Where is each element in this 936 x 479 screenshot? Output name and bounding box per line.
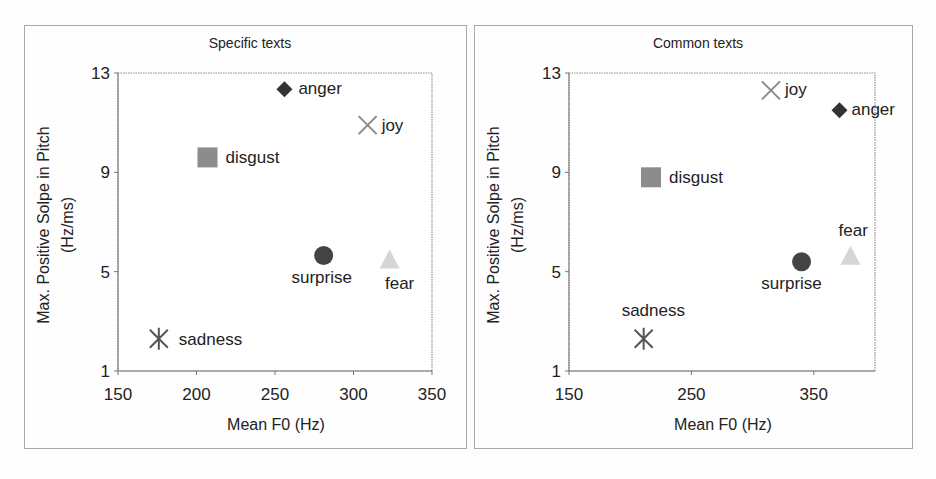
circle-marker-icon <box>792 252 811 271</box>
chart-canvas: Specific texts15913150200250300350Mean F… <box>0 0 936 479</box>
point-label: joy <box>381 116 404 135</box>
data-point-disgust: disgust <box>641 167 723 187</box>
point-label: sadness <box>622 301 685 320</box>
y-tick-label: 13 <box>542 64 561 83</box>
point-label: fear <box>385 274 415 293</box>
point-label: anger <box>852 100 896 119</box>
square-marker-icon <box>197 147 217 167</box>
y-tick-label: 5 <box>552 263 561 282</box>
point-label: joy <box>784 80 807 99</box>
x-tick-label: 150 <box>555 385 583 404</box>
point-label: disgust <box>225 148 279 167</box>
chart-title: Specific texts <box>209 35 291 51</box>
scatter-chart-1: Common texts15913150250350Mean F0 (Hz)Ma… <box>485 35 895 433</box>
scatter-chart-0: Specific texts15913150200250300350Mean F… <box>35 35 446 433</box>
x-tick-label: 300 <box>339 385 367 404</box>
square-marker-icon <box>641 167 661 187</box>
y-tick-label: 1 <box>552 362 561 381</box>
x-axis-label: Mean F0 (Hz) <box>674 416 772 433</box>
point-label: surprise <box>291 268 351 287</box>
x-tick-label: 250 <box>261 385 289 404</box>
y-tick-label: 13 <box>91 64 110 83</box>
y-axis-label: (Hz/ms) <box>509 197 526 253</box>
x-tick-label: 150 <box>104 385 132 404</box>
point-label: disgust <box>669 168 723 187</box>
plot-area <box>569 73 875 371</box>
chart-title: Common texts <box>653 35 743 51</box>
y-axis-label: Max. Positive Solpe in Pitch <box>485 126 502 323</box>
y-tick-label: 9 <box>101 163 110 182</box>
y-axis-label: (Hz/ms) <box>59 197 76 253</box>
point-label: fear <box>839 221 869 240</box>
point-label: surprise <box>761 274 821 293</box>
x-axis-label: Mean F0 (Hz) <box>227 416 325 433</box>
x-tick-label: 250 <box>677 385 705 404</box>
circle-marker-icon <box>314 246 333 265</box>
y-tick-label: 1 <box>101 362 110 381</box>
x-tick-label: 350 <box>800 385 828 404</box>
y-axis-label: Max. Positive Solpe in Pitch <box>35 126 52 323</box>
point-label: anger <box>298 79 342 98</box>
y-tick-label: 5 <box>101 263 110 282</box>
x-tick-label: 350 <box>418 385 446 404</box>
x-tick-label: 200 <box>182 385 210 404</box>
point-label: sadness <box>179 330 242 349</box>
data-point-disgust: disgust <box>197 147 279 167</box>
y-tick-label: 9 <box>552 163 561 182</box>
